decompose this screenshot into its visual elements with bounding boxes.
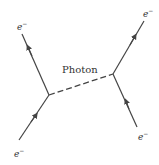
- electron-line-top-left: [22, 34, 49, 95]
- electron-label-top-right: e−: [143, 7, 153, 19]
- feynman-diagram: Photon e− e− e− e−: [0, 0, 159, 165]
- arrow-icon: [28, 47, 32, 56]
- arrow-icon: [130, 36, 135, 45]
- electron-label-bottom-right: e−: [138, 130, 148, 142]
- electron-line-top-right: [113, 21, 144, 74]
- electron-label-bottom-left: e−: [14, 147, 24, 159]
- photon-propagator: [49, 74, 113, 95]
- photon-label: Photon: [62, 64, 98, 75]
- arrow-icon: [31, 115, 36, 122]
- electron-line-bottom-right: [113, 74, 137, 127]
- electron-line-bottom-left: [19, 95, 49, 140]
- electron-label-top-left: e−: [17, 20, 27, 32]
